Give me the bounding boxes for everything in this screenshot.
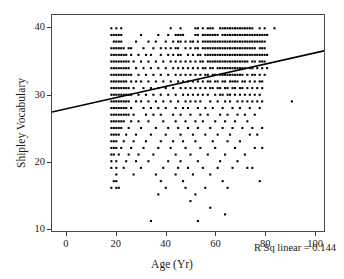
data-point <box>234 47 236 49</box>
data-point <box>199 100 201 102</box>
data-point <box>259 180 261 182</box>
data-point <box>123 140 125 142</box>
data-point <box>227 94 229 96</box>
data-point <box>217 54 219 56</box>
data-point <box>115 87 117 89</box>
data-point <box>234 120 236 122</box>
data-point <box>212 140 214 142</box>
data-point <box>251 100 253 102</box>
data-point <box>256 100 258 102</box>
data-point <box>145 114 147 116</box>
data-point <box>204 41 206 43</box>
data-point <box>123 67 125 69</box>
data-point <box>130 80 132 82</box>
data-point <box>202 167 204 169</box>
data-point <box>110 80 112 82</box>
data-point <box>135 41 137 43</box>
data-point <box>180 60 182 62</box>
data-point <box>115 41 117 43</box>
data-point <box>175 74 177 76</box>
data-point <box>197 160 199 162</box>
data-point <box>113 140 115 142</box>
data-point <box>207 80 209 82</box>
data-point <box>224 27 226 29</box>
data-point <box>254 147 256 149</box>
data-point <box>140 34 142 36</box>
data-point <box>180 74 182 76</box>
data-point <box>182 94 184 96</box>
scatter-plot-figure: 020406080100 40302010 Age (Yr) Shipley V… <box>0 0 344 279</box>
data-point <box>231 60 233 62</box>
data-point <box>251 47 253 49</box>
data-point <box>222 127 224 129</box>
data-point <box>234 41 236 43</box>
data-point <box>236 34 238 36</box>
data-point <box>231 34 233 36</box>
data-point <box>192 134 194 136</box>
data-point <box>241 41 243 43</box>
data-point <box>192 173 194 175</box>
data-point <box>244 41 246 43</box>
data-point <box>130 107 132 109</box>
data-point <box>202 94 204 96</box>
data-point <box>261 34 263 36</box>
data-point <box>189 200 191 202</box>
data-point <box>219 54 221 56</box>
data-point <box>110 160 112 162</box>
r-squared-annotation: R Sq linear = 0.144 <box>254 242 336 253</box>
data-point <box>187 67 189 69</box>
data-point <box>125 160 127 162</box>
data-point <box>194 47 196 49</box>
data-point <box>187 107 189 109</box>
data-point <box>113 120 115 122</box>
plot-area <box>51 14 325 232</box>
data-point <box>125 114 127 116</box>
data-point <box>138 154 140 156</box>
data-point <box>118 34 120 36</box>
data-point <box>110 34 112 36</box>
data-point <box>115 67 117 69</box>
data-point <box>214 120 216 122</box>
data-point <box>177 127 179 129</box>
data-point <box>219 27 221 29</box>
data-point <box>125 134 127 136</box>
data-point <box>209 27 211 29</box>
data-point <box>214 147 216 149</box>
data-point <box>145 140 147 142</box>
data-point <box>162 80 164 82</box>
data-point <box>110 100 112 102</box>
data-point <box>147 80 149 82</box>
data-point <box>236 160 238 162</box>
data-point <box>241 87 243 89</box>
data-point <box>204 87 206 89</box>
data-point <box>165 47 167 49</box>
data-point <box>130 74 132 76</box>
data-point <box>180 160 182 162</box>
data-point <box>192 54 194 56</box>
data-point <box>187 54 189 56</box>
data-point <box>236 100 238 102</box>
data-point <box>202 67 204 69</box>
data-point <box>251 127 253 129</box>
data-point <box>128 127 130 129</box>
data-point <box>244 54 246 56</box>
data-point <box>155 41 157 43</box>
data-point <box>217 80 219 82</box>
data-point <box>110 127 112 129</box>
data-point <box>251 87 253 89</box>
data-point <box>227 54 229 56</box>
data-point <box>209 127 211 129</box>
data-point <box>170 47 172 49</box>
x-tick-label: 0 <box>63 239 68 250</box>
data-point <box>264 60 266 62</box>
data-point <box>162 167 164 169</box>
data-point <box>125 80 127 82</box>
data-point <box>231 47 233 49</box>
data-point <box>246 100 248 102</box>
data-point <box>214 47 216 49</box>
data-point <box>110 60 112 62</box>
data-point <box>222 60 224 62</box>
data-point <box>259 54 261 56</box>
data-point <box>261 41 263 43</box>
data-point <box>224 80 226 82</box>
